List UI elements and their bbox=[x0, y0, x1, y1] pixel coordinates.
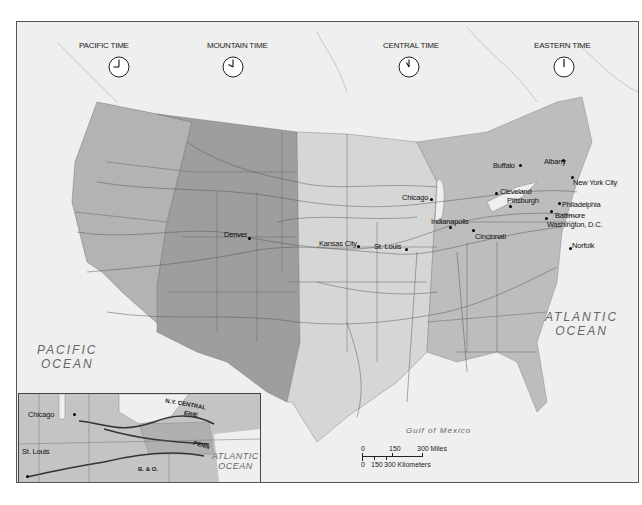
city-dot-philadelphia bbox=[558, 202, 561, 205]
tz-label-pacific: PACIFIC TIME bbox=[79, 41, 129, 50]
city-denver: Denver bbox=[224, 230, 247, 239]
city-new-york: New York City bbox=[573, 178, 617, 187]
inset-city-dot-st-louis bbox=[26, 475, 29, 478]
city-cincinnati: Cincinnati bbox=[475, 232, 506, 241]
city-dot-new-york bbox=[571, 176, 574, 179]
scale-miles-0: 0 bbox=[361, 445, 365, 452]
inset-atlantic-label: ATLANTIC OCEAN bbox=[212, 451, 259, 472]
city-cleveland: Cleveland bbox=[500, 187, 532, 196]
scale-tick bbox=[386, 456, 387, 460]
inset-city-chicago: Chicago bbox=[28, 410, 54, 419]
city-dot-albany bbox=[562, 159, 565, 162]
inset-city-dot-chicago bbox=[73, 413, 76, 416]
city-dot-baltimore bbox=[550, 210, 553, 213]
tz-label-central: CENTRAL TIME bbox=[383, 41, 439, 50]
city-dot-chicago bbox=[430, 198, 433, 201]
clock-eastern-icon bbox=[553, 56, 575, 78]
scale-km-300: 300 Kilometers bbox=[384, 461, 431, 468]
scale-miles-150: 150 bbox=[389, 445, 401, 452]
city-buffalo: Buffalo bbox=[493, 161, 515, 170]
inset-railroad-map: Chicago St. Louis N.Y. CENTRAL ERIE PENN… bbox=[18, 393, 261, 483]
tz-label-mountain: MOUNTAIN TIME bbox=[207, 41, 268, 50]
inset-city-st-louis: St. Louis bbox=[22, 447, 49, 456]
city-st-louis: St. Louis bbox=[374, 242, 401, 251]
clock-central-icon bbox=[398, 56, 420, 78]
city-washington: Washington, D.C. bbox=[547, 220, 602, 229]
scale-tick bbox=[374, 456, 375, 460]
scale-km-0: 0 bbox=[361, 461, 365, 468]
clock-mountain-icon bbox=[222, 56, 244, 78]
city-indianapolis: Indianapolis bbox=[431, 217, 469, 226]
city-pittsburgh: Pittsburgh bbox=[507, 196, 539, 205]
city-chicago: Chicago bbox=[402, 193, 428, 202]
city-dot-washington bbox=[545, 217, 548, 220]
railroad-label-b-and-o: B. & O. bbox=[138, 466, 158, 472]
scale-bar: 0 150 300 Miles 0 150 300 Kilometers bbox=[360, 445, 480, 475]
city-dot-cincinnati bbox=[472, 229, 475, 232]
scale-km-150: 150 bbox=[371, 461, 383, 468]
scale-tick bbox=[422, 453, 423, 457]
city-dot-denver bbox=[248, 237, 251, 240]
tz-label-eastern: EASTERN TIME bbox=[534, 41, 591, 50]
city-baltimore: Baltimore bbox=[555, 211, 585, 220]
city-dot-buffalo bbox=[519, 164, 522, 167]
city-dot-cleveland bbox=[495, 192, 498, 195]
scale-tick bbox=[392, 453, 393, 457]
city-dot-indianapolis bbox=[449, 226, 452, 229]
city-dot-kansas-city bbox=[357, 245, 360, 248]
city-philadelphia: Philadelphia bbox=[562, 200, 600, 209]
us-time-zone-map: PACIFIC TIME MOUNTAIN TIME CENTRAL TIME … bbox=[16, 21, 639, 483]
scale-miles-300: 300 Miles bbox=[417, 445, 447, 452]
pacific-ocean-label: PACIFIC OCEAN bbox=[37, 344, 97, 372]
atlantic-ocean-label: ATLANTIC OCEAN bbox=[545, 311, 618, 339]
city-norfolk: Norfolk bbox=[572, 241, 594, 250]
city-kansas-city: Kansas City bbox=[319, 239, 357, 248]
city-dot-norfolk bbox=[569, 247, 572, 250]
gulf-of-mexico-label: Gulf of Mexico bbox=[406, 426, 471, 435]
city-dot-pittsburgh bbox=[509, 205, 512, 208]
clock-pacific-icon bbox=[108, 56, 130, 78]
scale-tick bbox=[362, 453, 363, 461]
city-dot-st-louis bbox=[405, 248, 408, 251]
